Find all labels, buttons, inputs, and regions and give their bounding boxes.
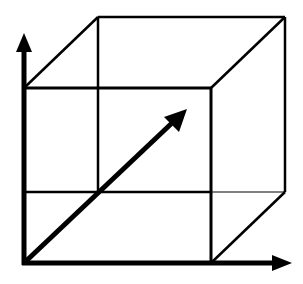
cube-axes-diagram	[0, 0, 303, 284]
